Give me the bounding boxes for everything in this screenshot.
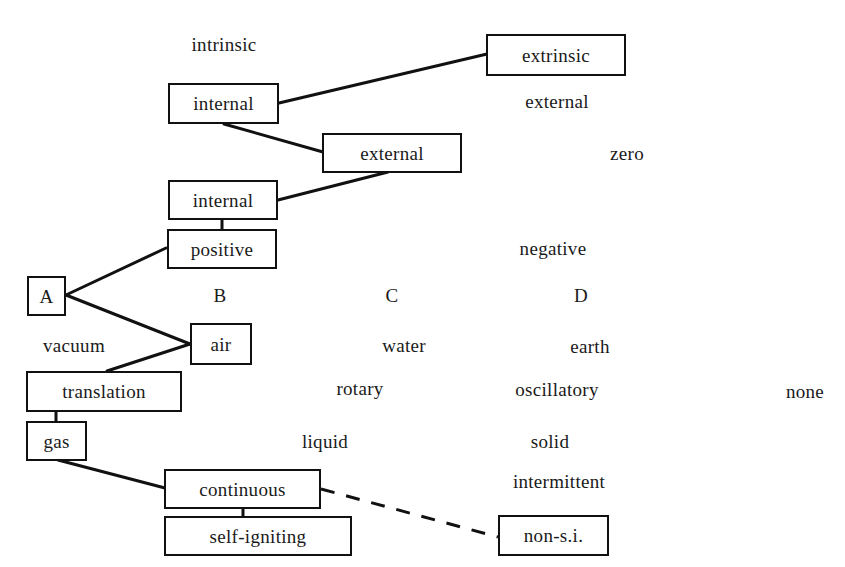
node-air-label: air	[211, 335, 232, 354]
node-non-si: non-s.i.	[498, 515, 609, 556]
node-internal-2: internal	[168, 180, 278, 220]
node-non-si-label: non-s.i.	[524, 526, 583, 545]
node-extrinsic-label: extrinsic	[522, 46, 590, 65]
node-air: air	[190, 323, 252, 365]
node-external-label: external	[360, 144, 424, 163]
label-water: water	[382, 336, 426, 355]
label-rotary: rotary	[336, 379, 383, 398]
label-earth: earth	[570, 337, 609, 356]
link-internal-extrinsic	[279, 54, 487, 103]
link-gas-continuous	[58, 460, 165, 488]
node-internal-2-label: internal	[193, 191, 253, 210]
label-solid: solid	[531, 432, 569, 451]
label-oscillatory: oscillatory	[515, 380, 599, 399]
node-continuous-label: continuous	[199, 480, 285, 499]
link-air-translation	[107, 344, 190, 371]
node-extrinsic: extrinsic	[486, 34, 626, 76]
node-gas-label: gas	[43, 432, 69, 451]
node-translation-label: translation	[62, 382, 146, 401]
label-liquid: liquid	[302, 432, 348, 451]
label-negative: negative	[520, 239, 587, 258]
node-internal-1: internal	[168, 83, 279, 124]
link-positive-A	[66, 248, 166, 295]
node-gas: gas	[26, 421, 87, 461]
node-internal-1-label: internal	[193, 94, 253, 113]
label-vacuum: vacuum	[43, 336, 105, 355]
label-intrinsic: intrinsic	[192, 35, 257, 54]
node-A-label: A	[39, 287, 53, 306]
node-continuous: continuous	[164, 469, 321, 509]
node-A: A	[27, 276, 66, 316]
column-header-C: C	[386, 286, 399, 305]
label-external: external	[525, 92, 589, 111]
node-self-igniting: self-igniting	[164, 516, 352, 556]
node-positive-label: positive	[191, 240, 254, 259]
node-translation: translation	[26, 371, 182, 412]
node-positive: positive	[167, 229, 277, 269]
label-none: none	[786, 382, 824, 401]
label-zero: zero	[610, 144, 644, 163]
label-intermittent: intermittent	[513, 472, 605, 491]
link-external-internal	[278, 172, 388, 200]
node-self-igniting-label: self-igniting	[210, 527, 307, 546]
column-header-D: D	[574, 286, 588, 305]
connector-lines	[0, 0, 845, 567]
node-external: external	[322, 133, 462, 173]
column-header-B: B	[214, 286, 227, 305]
morphological-diagram: extrinsic internal external internal pos…	[0, 0, 845, 567]
link-internal-external	[224, 124, 323, 152]
